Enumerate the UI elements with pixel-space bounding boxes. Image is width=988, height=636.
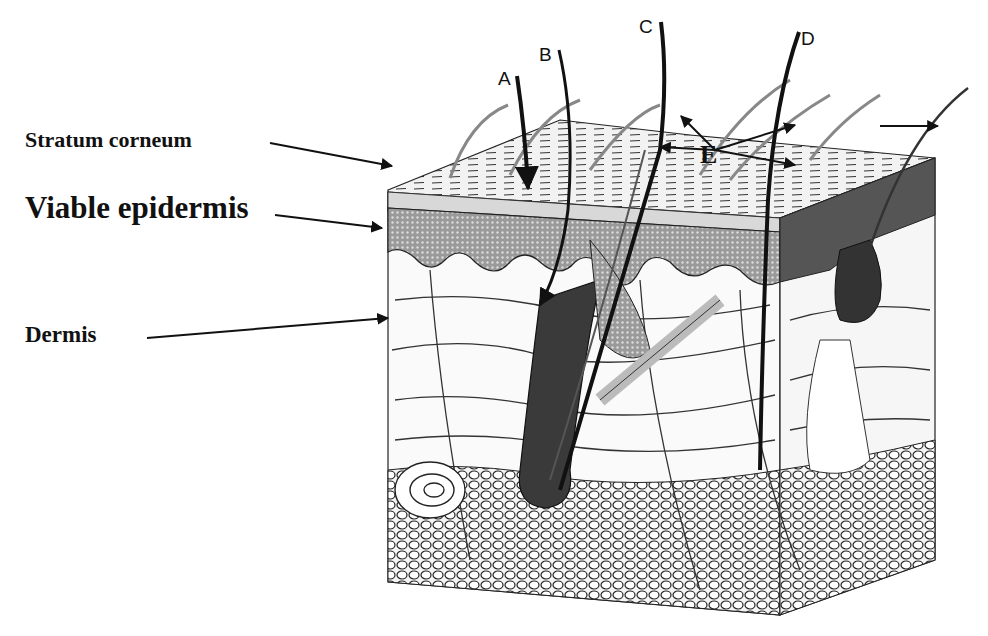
route-label-b: B xyxy=(539,44,552,66)
label-dermis: Dermis xyxy=(25,322,97,348)
route-label-e: E xyxy=(700,140,717,170)
stratum-corneum-pointer xyxy=(270,143,392,166)
sweat-gland xyxy=(395,462,465,518)
skin-cross-section-illustration xyxy=(0,0,988,636)
route-label-c: C xyxy=(639,16,653,38)
route-label-a: A xyxy=(498,68,511,90)
route-label-d: D xyxy=(801,28,815,50)
viable-epidermis-pointer xyxy=(275,215,382,228)
label-stratum-corneum: Stratum corneum xyxy=(25,127,192,153)
label-viable-epidermis: Viable epidermis xyxy=(25,190,249,226)
label-pointer-arrows xyxy=(147,143,392,338)
dermis-pointer xyxy=(147,318,388,338)
